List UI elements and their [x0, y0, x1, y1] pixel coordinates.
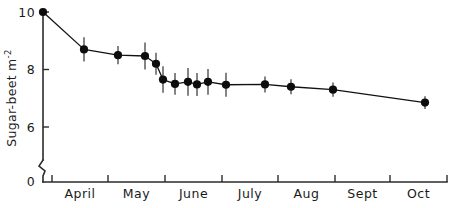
error-bars: [43, 9, 425, 109]
data-point-7: [184, 78, 192, 86]
svg-text:Sugar-beet m-2: Sugar-beet m-2: [3, 49, 19, 146]
data-point-2: [114, 51, 122, 59]
data-point-1: [80, 45, 88, 53]
chart-plot-area: 06810 AprilMayJuneJulyAugSeptOct Sugar-b…: [0, 0, 451, 208]
data-point-12: [287, 83, 295, 91]
x-tick-label-april: April: [64, 186, 95, 201]
x-tick-label-oct: Oct: [407, 186, 430, 201]
data-point-10: [222, 81, 230, 89]
data-point-13: [329, 86, 337, 94]
data-point-8: [193, 80, 201, 88]
chart-figure: 06810 AprilMayJuneJulyAugSeptOct Sugar-b…: [0, 0, 451, 208]
x-axis: [43, 175, 447, 182]
x-tick-labels: AprilMayJuneJulyAugSeptOct: [64, 186, 430, 201]
data-point-3: [141, 52, 149, 60]
y-tick-label-0: 0: [27, 174, 35, 189]
data-point-11: [261, 80, 269, 88]
data-point-9: [204, 78, 212, 86]
y-tick-label-6: 6: [27, 120, 35, 135]
series-polyline: [43, 12, 425, 103]
y-axis-title-text: Sugar-beet m: [4, 58, 19, 146]
y-tick-label-10: 10: [18, 5, 35, 20]
x-tick-label-june: June: [178, 186, 208, 201]
y-axis-title-exponent: -2: [3, 49, 13, 58]
data-point-6: [171, 80, 179, 88]
series-line: [43, 12, 425, 103]
y-axis: [39, 10, 49, 182]
x-tick-label-may: May: [123, 186, 150, 201]
y-axis-title: Sugar-beet m-2: [3, 49, 19, 146]
data-point-markers: [39, 8, 429, 107]
data-point-5: [159, 75, 167, 83]
data-point-4: [152, 60, 160, 68]
data-point-14: [421, 98, 429, 106]
x-tick-label-july: July: [237, 186, 263, 201]
x-tick-label-sept: Sept: [347, 186, 377, 201]
data-point-0: [39, 8, 47, 16]
y-tick-label-8: 8: [27, 62, 35, 77]
y-tick-labels: 06810: [18, 5, 35, 189]
x-tick-label-aug: Aug: [294, 186, 320, 201]
